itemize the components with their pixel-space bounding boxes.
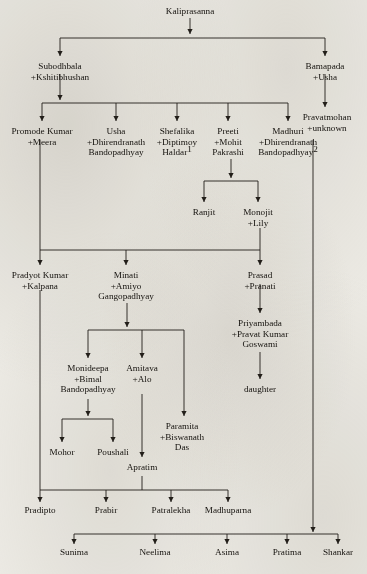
person-label-line: +Usha — [313, 72, 337, 82]
person-node-pradyot-kumar[interactable]: Pradyot Kumar+Kalpana — [12, 270, 68, 291]
genealogy-chart-page: KaliprasannaSubodhbala+KshitibhushanBama… — [0, 0, 367, 574]
person-node-sunima[interactable]: Sunima — [60, 547, 88, 557]
person-label-line: Usha — [107, 126, 126, 136]
arrow-paramita-icon — [181, 411, 186, 416]
person-label-line: Bamapada — [306, 61, 345, 71]
person-node-monideepa[interactable]: Monideepa+BimalBandopadhyay — [60, 363, 116, 394]
person-node-mohor[interactable]: Mohor — [49, 447, 74, 457]
arrow-usha-icon — [113, 116, 118, 121]
person-label-line: Prasad — [248, 270, 273, 280]
person-label-line: Pradyot Kumar — [12, 270, 68, 280]
arrow-prabir-icon — [103, 497, 108, 502]
arrow-mohor-icon — [59, 437, 64, 442]
arrow-sunima-icon — [71, 539, 76, 544]
person-label-line: Patralekha — [152, 505, 191, 515]
arrow-amitava-icon — [139, 353, 144, 358]
person-nodes-layer: KaliprasannaSubodhbala+KshitibhushanBama… — [12, 6, 354, 557]
person-label-line: Subodhbala — [38, 61, 81, 71]
person-node-madhuparna[interactable]: Madhuparna — [205, 505, 251, 515]
person-node-amitava[interactable]: Amitava+Alo — [126, 363, 158, 384]
arrow-pradyot-kumar-icon — [37, 260, 42, 265]
person-label-line: Paramita — [166, 421, 199, 431]
arrow-monojit-icon — [255, 197, 260, 202]
person-node-subodhbala[interactable]: Subodhbala+Kshitibhushan — [31, 61, 90, 82]
person-label-line: Goswami — [242, 339, 278, 349]
person-node-shankar[interactable]: Shankar — [323, 547, 353, 557]
arrow-monideepa-down-icon — [85, 411, 90, 416]
person-node-prabir[interactable]: Prabir — [95, 505, 117, 515]
person-label-line: Minati — [114, 270, 139, 280]
person-label-line: Kaliprasanna — [166, 6, 214, 16]
person-label-line: Poushali — [97, 447, 129, 457]
person-label-line: Sunima — [60, 547, 88, 557]
person-node-promode-kumar[interactable]: Promode Kumar+Meera — [12, 126, 73, 147]
arrow-preeti-down-icon — [228, 173, 233, 178]
person-label-line: Bandopadhyay — [88, 147, 144, 157]
person-label-line: Madhuparna — [205, 505, 251, 515]
arrow-kaliprasanna-down-icon — [187, 29, 192, 34]
arrow-asima-icon — [224, 539, 229, 544]
person-node-patralekha[interactable]: Patralekha — [152, 505, 191, 515]
arrow-shankar-icon — [335, 539, 340, 544]
arrow-promode-kumar-icon — [39, 116, 44, 121]
arrow-pratima-icon — [284, 539, 289, 544]
arrow-minati-icon — [123, 260, 128, 265]
person-label-line: +Kalpana — [22, 281, 58, 291]
person-label-line: +Meera — [28, 137, 57, 147]
person-label-line: Preeti — [217, 126, 239, 136]
arrow-pradipto-icon — [37, 497, 42, 502]
person-label-line: +Dhirendranath — [87, 137, 146, 147]
person-label-line: Shefalika — [160, 126, 195, 136]
person-node-monojit[interactable]: Monojit+Lily — [243, 207, 273, 228]
person-node-pradipto[interactable]: Pradipto — [24, 505, 56, 515]
person-label-line: Monideepa — [67, 363, 108, 373]
person-label-line: daughter — [244, 384, 276, 394]
person-label-line: +Lily — [248, 218, 269, 228]
person-node-preeti[interactable]: Preeti+MohitPakrashi — [212, 126, 244, 157]
person-node-neelima[interactable]: Neelima — [139, 547, 170, 557]
arrow-poushali-icon — [110, 437, 115, 442]
person-node-prasad[interactable]: Prasad+Pranati — [244, 270, 276, 291]
person-node-pratima[interactable]: Pratima — [273, 547, 302, 557]
person-node-paramita[interactable]: Paramita+BiswanathDas — [160, 421, 204, 452]
person-label-line: Apratim — [127, 462, 158, 472]
person-label-line: +unknown — [307, 123, 347, 133]
person-label-line: +Biswanath — [160, 432, 204, 442]
person-node-shefalika[interactable]: Shefalika+DiptimoyHaldar1 — [157, 126, 198, 157]
person-node-apratim[interactable]: Apratim — [127, 462, 158, 472]
edges-layer — [40, 18, 338, 544]
person-label-line: Bandopadhyay — [60, 384, 116, 394]
person-node-poushali[interactable]: Poushali — [97, 447, 129, 457]
person-node-priyambada[interactable]: Priyambada+Pravat KumarGoswami — [232, 318, 288, 349]
arrow-patralekha-icon — [168, 497, 173, 502]
arrow-minati-down-icon — [124, 322, 129, 327]
person-node-usha[interactable]: Usha+DhirendranathBandopadhyay — [87, 126, 146, 157]
person-node-bamapada[interactable]: Bamapada+Usha — [306, 61, 345, 82]
arrow-subodh-down-icon — [57, 95, 62, 100]
person-node-kaliprasanna[interactable]: Kaliprasanna — [166, 6, 214, 16]
person-label-line: +Pranati — [244, 281, 276, 291]
person-node-asima[interactable]: Asima — [215, 547, 239, 557]
person-label-line: Pravatmohan — [303, 112, 352, 122]
arrow-madhuparna-icon — [225, 497, 230, 502]
person-label-line: Shankar — [323, 547, 353, 557]
person-label-line: Pradipto — [24, 505, 56, 515]
arrow-pravat-bus-icon — [310, 527, 315, 532]
person-label-line: Prabir — [95, 505, 117, 515]
person-node-daughter[interactable]: daughter — [244, 384, 276, 394]
arrow-shefalika-icon — [174, 116, 179, 121]
arrow-neelima-icon — [152, 539, 157, 544]
arrow-ranjit-icon — [201, 197, 206, 202]
person-label-line: +Amiyo — [111, 281, 142, 291]
person-label-line: Neelima — [139, 547, 170, 557]
person-label-line: +Pravat Kumar — [232, 329, 288, 339]
arrow-priyambada-icon — [257, 308, 262, 313]
person-label-line: Pakrashi — [212, 147, 244, 157]
family-tree-diagram: KaliprasannaSubodhbala+KshitibhushanBama… — [0, 0, 367, 574]
arrow-apratim-icon — [139, 452, 144, 457]
person-node-minati[interactable]: Minati+AmiyoGangopadhyay — [98, 270, 154, 301]
person-node-pravatmohan[interactable]: Pravatmohan+unknown — [303, 112, 352, 133]
person-label-line: Pratima — [273, 547, 302, 557]
arrow-daughter-icon — [257, 374, 262, 379]
person-node-ranjit[interactable]: Ranjit — [193, 207, 216, 217]
